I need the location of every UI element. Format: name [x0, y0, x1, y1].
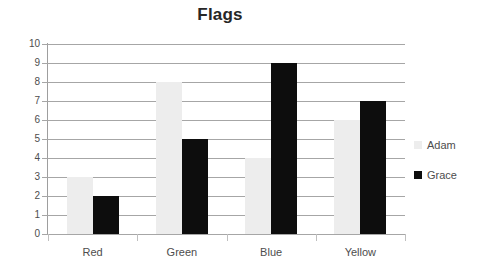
gridline-7	[48, 101, 405, 102]
chart-container: Flags 109876543210 RedGreenBlueYellow Ad…	[0, 0, 484, 269]
y-tick-label-7: 7	[4, 96, 40, 106]
bar-blue-adam[interactable]	[245, 158, 271, 234]
y-tick-label-5: 5	[4, 134, 40, 144]
y-tick-label-wrap-5: 5	[0, 134, 40, 144]
category-separator-2	[227, 234, 228, 241]
gridline-9	[48, 63, 405, 64]
y-tick-label-8: 8	[4, 77, 40, 87]
legend-item-grace[interactable]: Grace	[414, 166, 484, 184]
bar-blue-grace[interactable]	[271, 63, 297, 234]
y-tick-label-6: 6	[4, 115, 40, 125]
bar-green-adam[interactable]	[156, 82, 182, 234]
plot-area	[48, 44, 405, 234]
x-axis-label-red: Red	[48, 246, 137, 259]
category-separator-4	[405, 234, 406, 241]
y-tick-label-1: 1	[4, 210, 40, 220]
bar-green-grace[interactable]	[182, 139, 208, 234]
y-tick-label-wrap-6: 6	[0, 115, 40, 125]
category-separator-3	[316, 234, 317, 241]
y-tick-label-9: 9	[4, 58, 40, 68]
chart-title: Flags	[0, 5, 440, 25]
y-tick-label-3: 3	[4, 172, 40, 182]
y-tick-label-0: 0	[4, 229, 40, 239]
y-tick-label-wrap-4: 4	[0, 153, 40, 163]
y-tick-label-wrap-10: 10	[0, 39, 40, 49]
y-tick-label-wrap-2: 2	[0, 191, 40, 201]
category-separator-1	[137, 234, 138, 241]
bar-red-adam[interactable]	[67, 177, 93, 234]
y-tick-label-wrap-0: 0	[0, 229, 40, 239]
y-tick-label-4: 4	[4, 153, 40, 163]
gridline-8	[48, 82, 405, 83]
category-separator-0	[48, 234, 49, 241]
y-tick-label-wrap-1: 1	[0, 210, 40, 220]
bar-yellow-grace[interactable]	[360, 101, 386, 234]
y-tick-label-wrap-9: 9	[0, 58, 40, 68]
legend-label-adam: Adam	[427, 140, 456, 151]
y-tick-label-2: 2	[4, 191, 40, 201]
x-axis-label-green: Green	[137, 246, 226, 259]
y-tick-label-10: 10	[4, 39, 40, 49]
legend-item-adam[interactable]: Adam	[414, 136, 484, 154]
legend-swatch-adam	[414, 141, 422, 149]
x-axis-label-yellow: Yellow	[316, 246, 405, 259]
gridline-10	[48, 44, 405, 45]
y-tick-label-wrap-3: 3	[0, 172, 40, 182]
x-axis-label-blue: Blue	[227, 246, 316, 259]
legend-label-grace: Grace	[427, 170, 457, 181]
y-tick-label-wrap-7: 7	[0, 96, 40, 106]
chart-legend: AdamGrace	[414, 136, 484, 196]
y-tick-label-wrap-8: 8	[0, 77, 40, 87]
bar-yellow-adam[interactable]	[334, 120, 360, 234]
legend-swatch-grace	[414, 171, 422, 179]
bar-red-grace[interactable]	[93, 196, 119, 234]
